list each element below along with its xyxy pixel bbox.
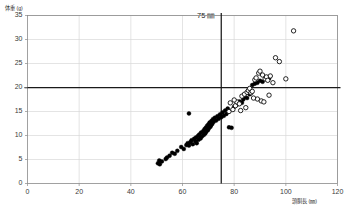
scatter-chart: 体重 (g) 頭胴長 (㎜) 75 ㎜ 35302520151050 02040… xyxy=(0,0,348,208)
gridlines xyxy=(28,16,338,184)
axis-ticks xyxy=(25,16,338,187)
data-points xyxy=(156,29,296,167)
plot-area xyxy=(0,0,348,208)
